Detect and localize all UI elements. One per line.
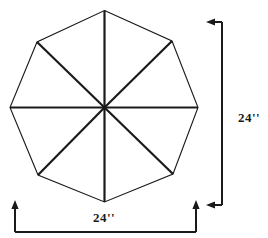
vertical-dimension-group: 24''	[206, 18, 260, 208]
arrow-left-icon-bottom	[206, 201, 215, 208]
octagon-spoke-lower-left	[38, 108, 105, 176]
octagon-spoke-upper-right	[105, 41, 173, 108]
horizontal-dimension-label: 24''	[93, 210, 115, 225]
arrow-up-icon-left	[11, 200, 18, 209]
octagon-spoke-upper-left	[37, 42, 105, 108]
arrow-up-icon-right	[192, 200, 199, 209]
octagon-spoke-lower-right	[105, 108, 174, 175]
arrow-left-icon-top	[206, 18, 215, 25]
vertical-dimension-label: 24''	[238, 110, 260, 125]
diagram-container: 24'' 24''	[0, 0, 268, 238]
horizontal-dimension-group: 24''	[11, 200, 199, 232]
octagon-diagram-canvas: 24'' 24''	[0, 0, 268, 238]
octagon-spokes-group	[10, 11, 198, 203]
